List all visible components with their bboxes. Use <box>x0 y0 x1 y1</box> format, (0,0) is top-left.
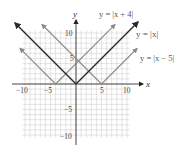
curve-labels: y = |x + 4| y = |x| y = |x − 5| <box>99 9 175 63</box>
x-tick-5: 5 <box>100 86 104 95</box>
curves <box>15 22 138 84</box>
y-tick-neg5: −5 <box>64 105 72 114</box>
x-tick-10: 10 <box>123 86 131 95</box>
label-abs-x: y = |x| <box>136 29 158 39</box>
y-tick-10: 10 <box>65 29 73 38</box>
absolute-value-graph: x y −10 −5 5 10 10 5 −5 −10 y = |x + 4| … <box>0 0 195 153</box>
x-tick-neg10: −10 <box>16 86 28 95</box>
x-axis-label: x <box>145 79 150 89</box>
curve-abs-x-right <box>76 22 138 84</box>
y-tick-neg10: −10 <box>60 132 72 141</box>
label-abs-x-plus-4: y = |x + 4| <box>99 9 134 19</box>
label-abs-x-minus-5: y = |x − 5| <box>140 53 175 63</box>
x-tick-neg5: −5 <box>44 86 52 95</box>
y-axis-label: y <box>72 9 77 19</box>
